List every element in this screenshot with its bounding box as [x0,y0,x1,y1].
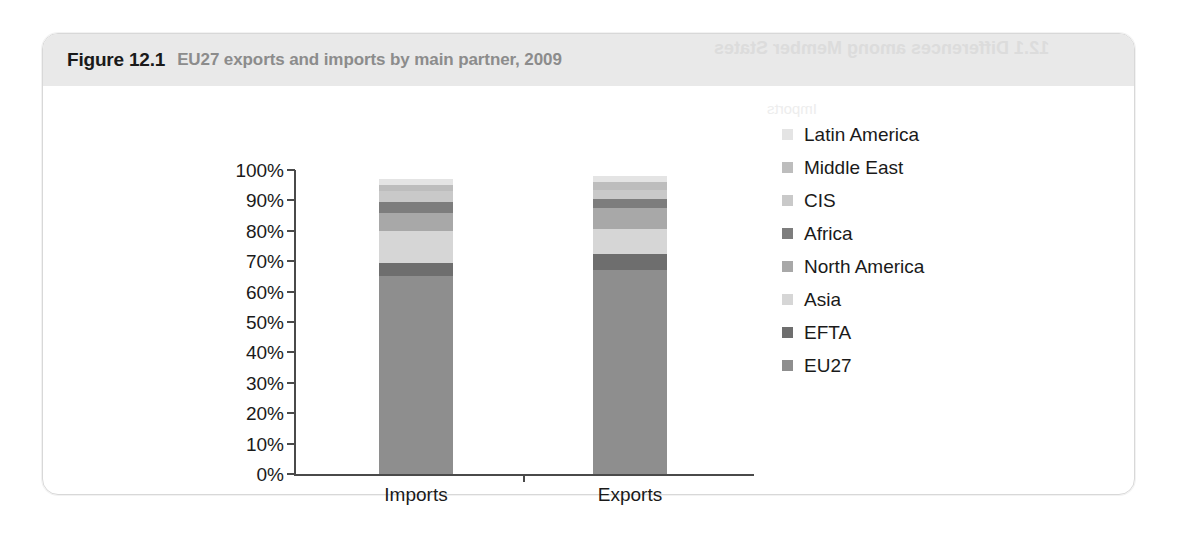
legend-label: CIS [804,191,836,210]
y-axis-tickmark [287,260,295,262]
legend-label: Africa [804,224,853,243]
y-axis-tickmark [287,443,295,445]
x-axis-label-exports: Exports [550,484,710,506]
y-axis-tick-40: 40% [222,343,284,362]
y-axis-tickmark [287,169,295,171]
x-axis-label-imports: Imports [336,484,496,506]
bar-segment-eu27 [593,270,667,474]
y-axis-tickmark [287,473,295,475]
bar-segment-cis [379,191,453,202]
legend-swatch-icon [782,360,793,371]
y-axis-tick-20: 20% [222,404,284,423]
legend-label: EFTA [804,323,851,342]
y-axis-tickmark [287,291,295,293]
y-axis-tick-30: 30% [222,374,284,393]
y-axis-tick-0: 0% [222,465,284,484]
legend-swatch-icon [782,162,793,173]
y-axis-tick-60: 60% [222,283,284,302]
legend-swatch-icon [782,261,793,272]
legend-swatch-icon [782,294,793,305]
y-axis-tickmark [287,199,295,201]
bar-segment-eu27 [379,276,453,474]
y-axis-tickmark [287,351,295,353]
y-axis-tick-70: 70% [222,252,284,271]
y-axis-tick-labels: 100%90%80%70%60%50%40%30%20%10%0% [222,86,284,495]
legend-swatch-icon [782,327,793,338]
y-axis-tickmark [287,412,295,414]
legend-swatch-icon [782,228,793,239]
legend-label: Latin America [804,125,919,144]
legend-item-eu27[interactable]: EU27 [782,349,1042,382]
y-axis-tick-50: 50% [222,313,284,332]
bar-segment-efta [593,254,667,271]
legend-item-north-america[interactable]: North America [782,250,1042,283]
y-axis-tick-100: 100% [222,161,284,180]
figure-card: Figure 12.1 EU27 exports and imports by … [42,33,1135,495]
bar-segment-africa [379,202,453,213]
legend-item-asia[interactable]: Asia [782,283,1042,316]
bar-segment-cis [593,190,667,199]
figure-number: Figure 12.1 [67,49,165,71]
bar-segment-efta [379,263,453,277]
legend-item-efta[interactable]: EFTA [782,316,1042,349]
x-axis-mid-tick [523,474,525,482]
y-axis-tick-80: 80% [222,222,284,241]
legend-label: EU27 [804,356,852,375]
page-bleedthrough-text-secondary: Imports [767,100,817,117]
bar-segment-asia [593,229,667,253]
bar-segment-north-america [593,208,667,229]
legend-swatch-icon [782,129,793,140]
figure-title: EU27 exports and imports by main partner… [177,50,562,70]
bar-segment-africa [593,199,667,208]
legend-label: Asia [804,290,841,309]
bar-segment-asia [379,231,453,263]
y-axis-tickmark [287,382,295,384]
y-axis-tickmark [287,230,295,232]
stacked-bar-imports [379,179,453,474]
legend-label: North America [804,257,924,276]
bar-segment-north-america [379,213,453,231]
chart-legend: Latin AmericaMiddle EastCISAfricaNorth A… [782,118,1042,382]
legend-item-cis[interactable]: CIS [782,184,1042,217]
legend-label: Middle East [804,158,903,177]
stacked-bar-exports [593,176,667,474]
legend-item-latin-america[interactable]: Latin America [782,118,1042,151]
page-bleedthrough-text: 12.1 Differences among Member States [714,38,1049,59]
y-axis-tick-90: 90% [222,191,284,210]
legend-swatch-icon [782,195,793,206]
chart-plot-area: 100%90%80%70%60%50%40%30%20%10%0% Import… [42,86,1135,495]
legend-item-africa[interactable]: Africa [782,217,1042,250]
bar-segment-middle-east [593,182,667,190]
y-axis-tick-10: 10% [222,435,284,454]
y-axis-tickmark [287,321,295,323]
legend-item-middle-east[interactable]: Middle East [782,151,1042,184]
